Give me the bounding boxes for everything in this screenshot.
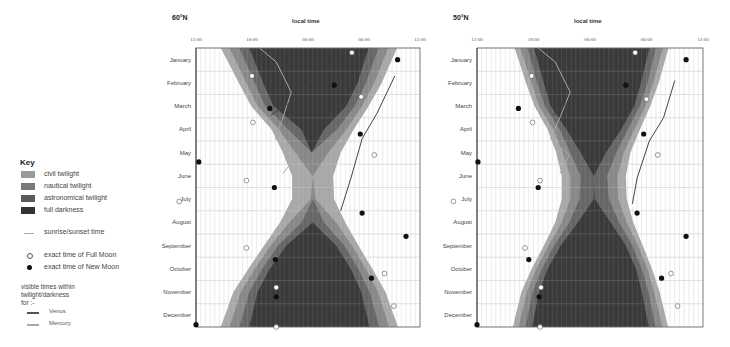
legend-label-venus: Venus (49, 308, 66, 314)
legend-label-astronomical: astronomical twilight (44, 194, 107, 201)
new-moon-icon (27, 265, 32, 270)
nautical-twilight-swatch (21, 183, 35, 190)
civil-twilight-swatch (21, 171, 35, 178)
full-moon-icon (27, 253, 33, 259)
full-darkness-swatch (21, 207, 35, 214)
legend-label-new-moon: exact time of New Moon (44, 263, 119, 270)
mercury-line-icon (27, 324, 39, 326)
venus-line-icon (27, 312, 39, 314)
legend-label-mercury: Mercury (49, 320, 71, 326)
legend-label-civil: civil twilight (44, 170, 79, 177)
legend-label-sunrise-sunset: sunrise/sunset time (44, 228, 104, 235)
legend-label-full-moon: exact time of Full Moon (44, 251, 116, 258)
sunrise-sunset-line-icon (24, 233, 34, 234)
chart-50n-plot (0, 0, 730, 347)
legend: Key (20, 158, 35, 167)
legend-visible-note: visible times within twilight/darkness f… (21, 283, 75, 307)
legend-label-darkness: full darkness (44, 206, 83, 213)
legend-visible-note-line1: visible times within (21, 283, 75, 291)
legend-label-nautical: nautical twilight (44, 182, 91, 189)
legend-visible-note-line2: twilight/darkness (21, 291, 75, 299)
astronomical-twilight-swatch (21, 195, 35, 202)
legend-visible-note-line3: for :- (21, 299, 75, 307)
legend-title: Key (20, 158, 35, 167)
